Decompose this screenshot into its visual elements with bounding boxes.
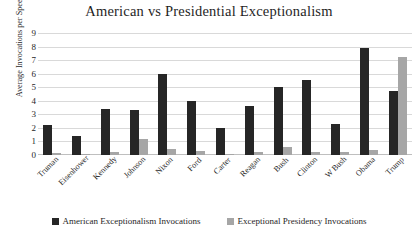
y-axis-tick-2: 2	[32, 123, 37, 132]
bar	[216, 128, 225, 155]
y-axis-tick-1: 1	[32, 137, 37, 146]
y-axis-tick-7: 7	[32, 56, 37, 65]
bar-group	[239, 33, 268, 155]
bar-group	[67, 33, 96, 155]
x-axis-label-truman: Truman	[37, 155, 61, 179]
bar-group	[297, 33, 326, 155]
chart-container: American vs Presidential Exceptionalism …	[0, 0, 418, 235]
x-axis-category-labels: TrumanEisenhowerKennedyJohnsonNixonFordC…	[38, 157, 412, 205]
x-axis-label-nixon: Nixon	[155, 156, 175, 176]
bar	[389, 91, 398, 155]
legend-item: Exceptional Presidency Invocations	[227, 216, 367, 226]
y-axis-tick-labels: 9876543210	[24, 33, 36, 155]
plot-area	[38, 33, 412, 155]
y-axis-title: Average Invocations per Speech	[15, 0, 24, 110]
y-axis-tick-4: 4	[32, 96, 37, 105]
x-axis-label-johnson: Johnson	[122, 155, 147, 180]
bar-group	[326, 33, 355, 155]
x-axis-label-cell: Johnson	[124, 157, 153, 205]
x-axis-label-cell: Ford	[182, 157, 211, 205]
x-axis-label-cell: Clinton	[297, 157, 326, 205]
y-axis-tick-8: 8	[32, 42, 37, 51]
bar-group	[268, 33, 297, 155]
x-axis-label-cell: Obama	[354, 157, 383, 205]
x-axis-label-kennedy: Kennedy	[92, 155, 119, 182]
x-axis-label-cell: Reagan	[239, 157, 268, 205]
bar-group	[211, 33, 240, 155]
x-axis-label-trump: Trump	[384, 156, 405, 177]
bar	[167, 149, 176, 155]
x-axis-label-cell: Trump	[383, 157, 412, 205]
bar	[187, 101, 196, 155]
bar	[245, 106, 254, 155]
bar-group	[153, 33, 182, 155]
x-axis-label-cell: Kennedy	[96, 157, 125, 205]
y-axis-tick-6: 6	[32, 69, 37, 78]
x-axis-label-reagan: Reagan	[239, 156, 262, 179]
bar-group	[38, 33, 67, 155]
legend-swatch-icon	[227, 218, 234, 225]
bar	[43, 125, 52, 155]
bar-group	[182, 33, 211, 155]
y-axis-tick-3: 3	[32, 110, 37, 119]
bar	[274, 87, 283, 155]
x-axis-label-w-bush: W Bush	[324, 155, 349, 180]
x-axis-label-cell: Bush	[268, 157, 297, 205]
bar	[101, 109, 110, 155]
bar	[130, 110, 139, 155]
bar	[139, 139, 148, 155]
bar	[302, 80, 311, 155]
bar	[158, 74, 167, 155]
x-axis-label-ford: Ford	[187, 156, 204, 173]
x-axis-label-cell: Nixon	[153, 157, 182, 205]
y-axis-tick-9: 9	[32, 29, 37, 38]
y-axis-tick-0: 0	[32, 151, 37, 160]
x-axis-label-clinton: Clinton	[296, 156, 319, 179]
bar-group	[383, 33, 412, 155]
bar	[283, 147, 292, 155]
bar	[398, 57, 407, 155]
bar-groups	[38, 33, 412, 155]
legend-label: American Exceptionalism Invocations	[63, 216, 201, 226]
bar	[196, 151, 205, 155]
x-axis-label-cell: Eisenhower	[67, 157, 96, 205]
chart-legend: American Exceptionalism InvocationsExcep…	[0, 216, 418, 226]
x-axis-label-cell: Carter	[211, 157, 240, 205]
x-axis-label-carter: Carter	[213, 156, 233, 176]
bar-group	[354, 33, 383, 155]
bar-group	[96, 33, 125, 155]
legend-swatch-icon	[52, 218, 59, 225]
bar	[360, 48, 369, 155]
chart-title: American vs Presidential Exceptionalism	[0, 3, 418, 20]
x-axis-label-bush: Bush	[272, 156, 290, 174]
bar	[331, 124, 340, 155]
legend-label: Exceptional Presidency Invocations	[238, 216, 367, 226]
x-axis-label-cell: W Bush	[326, 157, 355, 205]
bar	[72, 136, 81, 155]
bar-group	[124, 33, 153, 155]
x-axis-label-obama: Obama	[354, 156, 377, 179]
y-axis-tick-5: 5	[32, 83, 37, 92]
legend-item: American Exceptionalism Invocations	[52, 216, 201, 226]
